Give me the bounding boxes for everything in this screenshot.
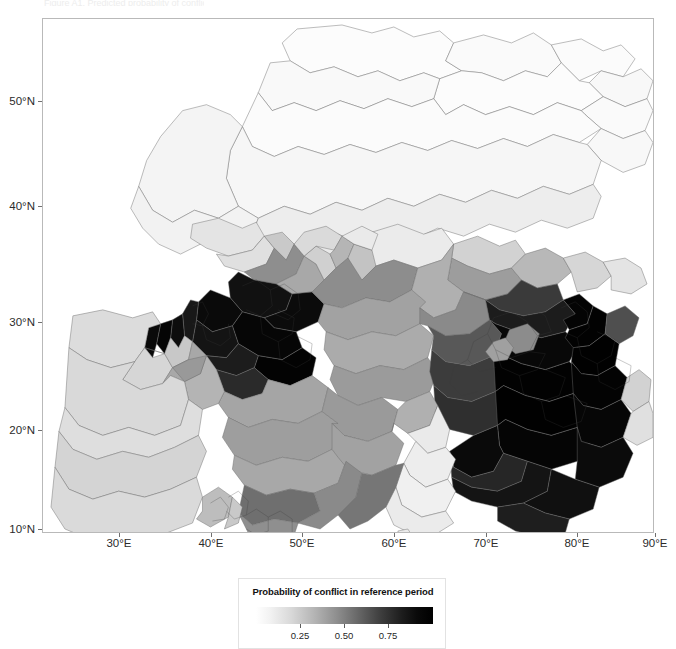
y-tick-label-50n: 50°N: [0, 95, 42, 107]
y-tick-label-10n: 10°N: [0, 523, 42, 535]
x-tick-label-50e: 50°E: [289, 537, 314, 549]
legend-tick-mark: [388, 624, 389, 628]
y-tick-label-30n: 30°N: [0, 316, 42, 328]
x-tick-label-40e: 40°E: [198, 537, 223, 549]
legend-tick-label-075: 0.75: [379, 630, 398, 641]
y-tick-label-40n: 40°N: [0, 200, 42, 212]
map-legend: Probability of conflict in reference per…: [238, 578, 446, 649]
figure-caption-sliver: Figure A1. Predicted probability of conf…: [44, 0, 204, 6]
map-figure: Figure A1. Predicted probability of conf…: [0, 0, 676, 649]
legend-colorbar: [256, 607, 433, 624]
map-plot-panel: [42, 18, 654, 533]
legend-tick-label-025: 0.25: [291, 630, 310, 641]
x-tick-label-30e: 30°E: [106, 537, 131, 549]
legend-title: Probability of conflict in reference per…: [239, 586, 447, 597]
legend-tick-label-050: 0.50: [335, 630, 354, 641]
legend-tick-mark: [300, 624, 301, 628]
y-tick-label-20n: 20°N: [0, 424, 42, 436]
x-tick-label-70e: 70°E: [473, 537, 498, 549]
x-tick-label-60e: 60°E: [381, 537, 406, 549]
choropleth-map: [43, 19, 653, 532]
x-tick-label-90e: 90°E: [642, 537, 667, 549]
legend-tick-mark: [344, 624, 345, 628]
x-tick-label-80e: 80°E: [564, 537, 589, 549]
